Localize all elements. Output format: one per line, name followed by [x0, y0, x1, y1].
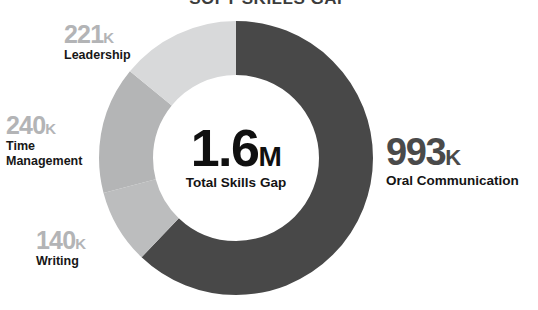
callout-time-management-label-line2: Management [6, 154, 82, 168]
center-total-label: 1.6M Total Skills Gap [146, 124, 326, 190]
callout-time-management-value: 240K [6, 112, 82, 138]
callout-time-management-label-line1: Time [6, 139, 35, 153]
page-title: SOFT SKILLS GAP [0, 0, 538, 9]
callout-oral-communication-label: Oral Communication [386, 173, 519, 189]
callout-time-management-label: TimeManagement [6, 139, 82, 169]
callout-leadership-unit: K [103, 29, 114, 46]
callout-writing[interactable]: 140K Writing [36, 227, 86, 269]
callout-leadership-label: Leadership [64, 48, 131, 63]
callout-writing-number: 140 [36, 226, 75, 254]
center-total-value: 1.6M [146, 124, 326, 173]
callout-leadership-value: 221K [64, 21, 131, 47]
callout-writing-unit: K [75, 235, 86, 252]
soft-skills-gap-donut-chart: SOFT SKILLS GAP 1.6M Total Skills Gap 22… [0, 0, 538, 310]
center-total-unit: M [258, 141, 281, 172]
center-total-number: 1.6 [191, 119, 259, 177]
callout-leadership-number: 221 [64, 20, 103, 48]
callout-time-management-number: 240 [6, 111, 45, 139]
callout-writing-value: 140K [36, 227, 86, 253]
callout-oral-communication-unit: K [445, 145, 461, 170]
callout-time-management-unit: K [45, 120, 56, 137]
callout-oral-communication-value: 993K [386, 133, 519, 173]
callout-oral-communication-number: 993 [386, 131, 445, 173]
callout-time-management[interactable]: 240K TimeManagement [6, 112, 82, 169]
center-total-caption: Total Skills Gap [146, 175, 326, 190]
callout-writing-label: Writing [36, 254, 86, 269]
callout-leadership[interactable]: 221K Leadership [64, 21, 131, 63]
callout-oral-communication[interactable]: 993K Oral Communication [386, 133, 519, 189]
